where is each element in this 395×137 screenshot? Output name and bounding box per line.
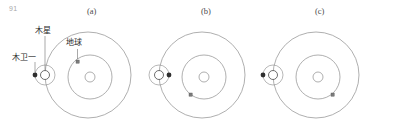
io-label: 木卫一 bbox=[12, 54, 36, 62]
earth-orbit-circle-c bbox=[296, 55, 340, 99]
sun-circle-a bbox=[85, 72, 95, 82]
sun-circle-c bbox=[313, 72, 323, 82]
panel-caption-a: (a) bbox=[87, 6, 96, 16]
figure-root: 91 (a) (b) (c) 木星 木卫一 地球 bbox=[0, 0, 395, 137]
io-body-c bbox=[261, 73, 266, 78]
earth-orbit-circle-b bbox=[182, 55, 226, 99]
earth-body-a bbox=[76, 60, 79, 63]
panel-caption-b: (b) bbox=[201, 6, 211, 16]
panel-b bbox=[149, 32, 245, 118]
panel-caption-c: (c) bbox=[315, 6, 324, 16]
earth-label: 地球 bbox=[66, 39, 82, 47]
jupiter-body-b bbox=[155, 71, 164, 80]
io-body-a bbox=[33, 73, 38, 78]
earth-orbit-circle-a bbox=[68, 55, 112, 99]
sun-circle-b bbox=[199, 72, 209, 82]
jupiter-orbit-circle-a bbox=[45, 32, 131, 118]
panel-c bbox=[261, 32, 359, 118]
page-number: 91 bbox=[9, 5, 17, 12]
jupiter-body-c bbox=[269, 71, 278, 80]
earth-body-b bbox=[189, 93, 192, 96]
jupiter-label: 木星 bbox=[35, 27, 51, 35]
io-body-b bbox=[167, 73, 172, 78]
jupiter-orbit-circle-c bbox=[273, 32, 359, 118]
orbit-diagram-svg bbox=[0, 0, 395, 137]
jupiter-body-a bbox=[41, 71, 50, 80]
jupiter-orbit-circle-b bbox=[159, 32, 245, 118]
earth-body-c bbox=[331, 93, 334, 96]
